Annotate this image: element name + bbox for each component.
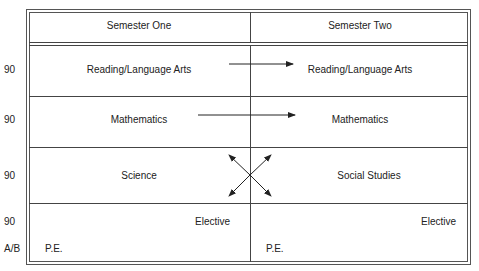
transition-arrows xyxy=(0,0,479,271)
swap-arrow-down-left xyxy=(229,175,250,196)
swap-arrow-up-right xyxy=(250,155,271,175)
swap-arrow-up-left xyxy=(229,155,250,175)
swap-arrow-down-right xyxy=(250,175,271,196)
